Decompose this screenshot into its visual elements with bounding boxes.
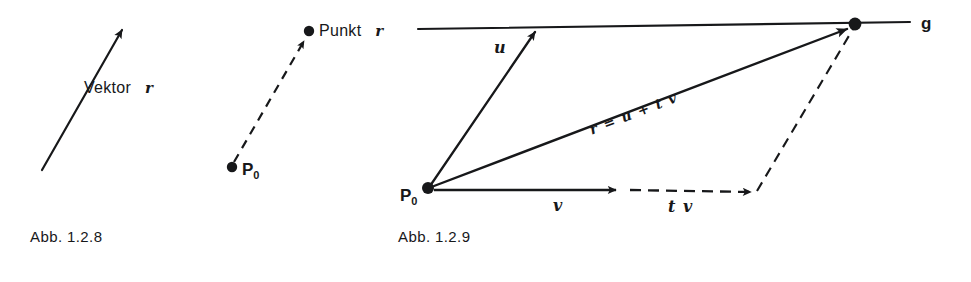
vektor-arrow	[42, 30, 122, 170]
parallelogram-closing-dashed-edge	[757, 29, 853, 191]
vector-diagrams-svg	[0, 0, 971, 282]
point-p0-letter-fig9: P	[400, 186, 411, 205]
punkt-word-text: Punkt	[319, 22, 361, 39]
line-g-label: g	[921, 14, 931, 34]
point-p0-dot	[227, 162, 237, 172]
vektor-word-text: Vektor	[84, 79, 131, 96]
point-p0-label-fig9: P0	[400, 186, 417, 207]
vector-u-label: u	[494, 38, 506, 57]
point-p0-subscript-fig9: 0	[411, 195, 417, 207]
punkt-symbol-fraktur: r	[375, 22, 383, 40]
caption-abb-1-2-8: Abb. 1.2.8	[30, 228, 102, 245]
point-p0-dot-fig9	[422, 182, 434, 194]
vector-tv-label: t v	[668, 197, 693, 216]
caption-abb-1-2-9: Abb. 1.2.9	[398, 228, 470, 245]
point-r-dot	[304, 26, 314, 36]
punkt-label: Punkt r	[319, 22, 383, 40]
vektor-symbol-fraktur: r	[145, 79, 153, 97]
point-tip-dot-fig9	[849, 18, 862, 31]
line-g	[418, 22, 910, 29]
figure-page: Vektor r Abb. 1.2.8 P0 Punkt r P0 u v t …	[0, 0, 971, 282]
point-p0-label: P0	[242, 160, 259, 181]
point-p0-letter: P	[242, 160, 253, 179]
figure-abb-1-2-8	[42, 30, 122, 170]
vector-u-arrow	[430, 32, 535, 186]
figure-abb-1-2-8-point	[227, 26, 314, 172]
vector-v-label: v	[553, 196, 562, 215]
point-p0-subscript: 0	[253, 169, 259, 181]
p0-to-r-dashed-arrow	[234, 41, 304, 162]
vektor-word-label: Vektor r	[84, 79, 153, 97]
vector-tv-dashed-arrow	[630, 190, 751, 192]
